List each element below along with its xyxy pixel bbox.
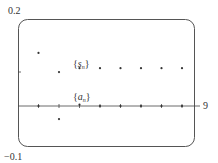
y-max-label: 0.2: [8, 5, 21, 16]
data-point: [181, 67, 183, 69]
chart: 0.2 −0.1 9 {sn} {an}: [0, 0, 218, 163]
data-point: [99, 105, 101, 107]
data-point: [160, 67, 162, 69]
data-point: [37, 52, 39, 54]
plot-frame: [19, 20, 195, 147]
data-point: [160, 105, 162, 107]
series-s-points: [37, 52, 183, 73]
data-point: [140, 105, 142, 107]
y-min-label: −0.1: [4, 151, 22, 162]
data-point: [140, 67, 142, 69]
data-point: [181, 105, 183, 107]
data-point: [58, 71, 60, 73]
x-max-label: 9: [203, 100, 208, 111]
data-point: [78, 104, 80, 106]
data-point: [37, 105, 39, 107]
data-point: [99, 67, 101, 69]
data-point: [119, 67, 121, 69]
data-point: [58, 118, 60, 120]
data-point: [119, 105, 121, 107]
series-s-label: {sn}: [73, 58, 90, 70]
series-a-label: {an}: [73, 91, 91, 103]
